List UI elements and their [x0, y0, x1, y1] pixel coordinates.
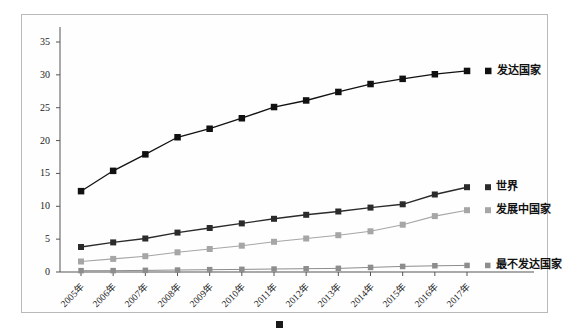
- series-marker: [175, 267, 181, 273]
- legend-marker-icon: [485, 184, 491, 190]
- series-layer: [78, 68, 492, 274]
- legend-marker-icon: [485, 207, 491, 213]
- series-marker: [143, 268, 149, 274]
- series-marker: [78, 259, 84, 265]
- series-marker: [271, 266, 277, 272]
- legend-marker-icon: [485, 263, 491, 269]
- series-marker: [110, 168, 117, 175]
- series-marker: [174, 134, 181, 141]
- series-marker: [303, 236, 309, 242]
- series-marker: [239, 115, 246, 122]
- series-marker: [206, 126, 213, 133]
- series-marker: [110, 256, 116, 262]
- series-marker: [142, 253, 148, 259]
- series-marker: [368, 228, 374, 234]
- series-marker: [239, 243, 245, 249]
- series-marker: [142, 151, 149, 158]
- line-chart-plot: [22, 15, 547, 312]
- series-marker: [432, 213, 438, 219]
- y-tick-label: 20: [24, 136, 50, 146]
- y-tick-label: 15: [24, 168, 50, 178]
- series-marker: [400, 264, 406, 270]
- series-marker: [78, 268, 84, 274]
- series-marker: [207, 267, 213, 273]
- series-marker: [367, 81, 374, 88]
- y-tick-label: 30: [24, 70, 50, 80]
- series-marker: [303, 97, 310, 104]
- caption-marker-icon: [276, 321, 283, 328]
- series-marker: [432, 263, 438, 269]
- series-marker: [207, 246, 213, 252]
- y-tick-marks: [56, 42, 60, 272]
- series-marker: [368, 205, 374, 211]
- series-marker: [239, 267, 245, 273]
- y-tick-label: 25: [24, 103, 50, 113]
- series-marker: [110, 268, 116, 274]
- series-marker: [464, 207, 470, 213]
- series-marker: [336, 266, 342, 272]
- series-marker: [239, 220, 245, 226]
- series-marker: [400, 201, 406, 207]
- y-tick-label: 10: [24, 201, 50, 211]
- series-marker: [271, 216, 277, 222]
- x-tick-marks: [81, 272, 467, 276]
- y-tick-label: 0: [24, 267, 50, 277]
- series-marker: [335, 232, 341, 238]
- series-marker: [464, 263, 470, 269]
- series-marker: [207, 225, 213, 231]
- series-marker: [432, 192, 438, 198]
- series-marker: [78, 244, 84, 250]
- chart-frame: 35302520151050 2005年2006年2007年2008年2009年…: [21, 14, 548, 313]
- series-marker: [335, 89, 342, 96]
- series-line: [81, 71, 467, 191]
- series-marker: [335, 209, 341, 215]
- series-marker: [368, 265, 374, 271]
- series-marker: [110, 239, 116, 245]
- series-marker: [271, 104, 278, 111]
- series-label: 发达国家: [497, 65, 541, 77]
- y-tick-label: 35: [24, 37, 50, 47]
- series-marker: [175, 249, 181, 255]
- series-marker: [399, 76, 406, 83]
- series-marker: [303, 266, 309, 272]
- series-marker: [142, 236, 148, 242]
- series-label: 最不发达国家: [496, 259, 562, 271]
- legend-marker-icon: [485, 68, 492, 75]
- series-label: 世界: [496, 181, 518, 193]
- series-marker: [271, 239, 277, 245]
- series-marker: [464, 68, 471, 75]
- axis-lines: [60, 27, 534, 272]
- series-marker: [464, 184, 470, 190]
- series-label: 发展中国家: [496, 204, 551, 216]
- series-marker: [303, 212, 309, 218]
- figure-caption: [0, 318, 561, 329]
- y-tick-label: 5: [24, 234, 50, 244]
- series-marker: [175, 230, 181, 236]
- series-marker: [400, 222, 406, 228]
- series-marker: [432, 71, 439, 78]
- series-marker: [78, 188, 85, 195]
